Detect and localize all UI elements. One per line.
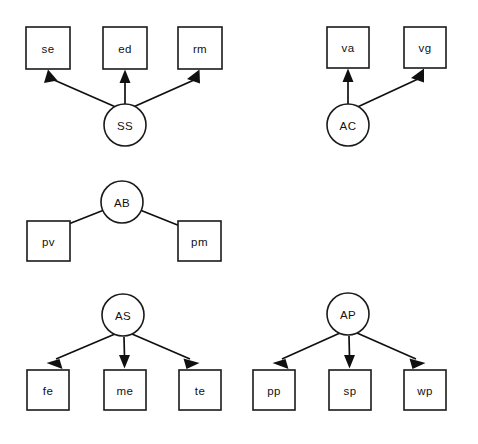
node-rm-label: rm xyxy=(193,43,207,55)
node-ap-label: AP xyxy=(340,309,356,321)
node-ac-label: AC xyxy=(340,120,357,132)
node-ed-label: ed xyxy=(118,43,132,55)
node-ac[interactable]: AC xyxy=(327,104,369,146)
node-pv-label: pv xyxy=(42,236,55,248)
node-ab[interactable]: AB xyxy=(101,181,143,223)
node-se-label: se xyxy=(42,43,55,55)
node-va[interactable]: va xyxy=(327,27,369,68)
edge-ac-to-vg xyxy=(351,69,424,111)
node-as[interactable]: AS xyxy=(102,294,144,336)
path-diagram-svg: se ed rm SS xyxy=(0,0,478,444)
node-pp[interactable]: pp xyxy=(253,370,295,410)
edge-ac-to-va xyxy=(343,69,354,105)
group-ac: va vg AC xyxy=(327,27,446,146)
node-pm[interactable]: pm xyxy=(178,221,221,261)
node-ab-label: AB xyxy=(114,197,130,209)
node-wp-label: wp xyxy=(416,385,433,397)
edge-as-to-me xyxy=(119,337,130,369)
node-fe[interactable]: fe xyxy=(27,370,69,410)
group-ap: pp sp wp AP xyxy=(253,293,446,410)
edge-ss-to-ed xyxy=(120,70,131,105)
edge-ap-to-wp xyxy=(357,333,426,369)
node-as-label: AS xyxy=(115,310,131,322)
edge-ap-to-pp xyxy=(273,333,341,369)
node-ss-label: SS xyxy=(117,120,133,132)
node-fe-label: fe xyxy=(43,385,53,397)
node-pp-label: pp xyxy=(267,385,281,397)
node-te[interactable]: te xyxy=(179,370,221,410)
node-te-label: te xyxy=(195,385,205,397)
node-vg[interactable]: vg xyxy=(404,27,446,68)
path-diagram-canvas: se ed rm SS xyxy=(0,0,478,444)
node-sp-label: sp xyxy=(344,385,357,397)
edge-ap-to-sp xyxy=(344,336,355,369)
node-pv[interactable]: pv xyxy=(27,221,70,261)
node-ap[interactable]: AP xyxy=(327,293,369,335)
node-ed[interactable]: ed xyxy=(103,27,147,69)
node-se[interactable]: se xyxy=(26,27,70,69)
node-ss[interactable]: SS xyxy=(104,104,146,146)
edge-as-to-te xyxy=(132,334,200,369)
edge-ss-to-se xyxy=(44,70,118,109)
node-sp[interactable]: sp xyxy=(329,370,371,410)
group-ab: pv pm AB xyxy=(27,181,221,261)
edge-as-to-fe xyxy=(47,334,116,369)
group-ss: se ed rm SS xyxy=(26,27,222,146)
group-as: fe me te AS xyxy=(27,294,221,410)
node-pm-label: pm xyxy=(191,236,208,248)
node-wp[interactable]: wp xyxy=(404,370,446,410)
node-me-label: me xyxy=(117,385,134,397)
node-va-label: va xyxy=(342,42,355,54)
node-vg-label: vg xyxy=(419,42,432,54)
node-me[interactable]: me xyxy=(104,370,146,410)
node-rm[interactable]: rm xyxy=(178,27,222,69)
edge-ss-to-rm xyxy=(131,70,200,109)
